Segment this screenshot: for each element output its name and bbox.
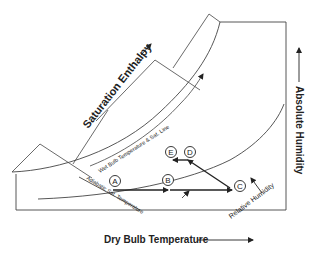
absolute-humidity-label: Absolute Humidity [294, 86, 305, 175]
relative-humidity-arrow [251, 178, 262, 193]
point-a: A [110, 176, 121, 187]
saturation-enthalpy-label: Saturation Enthalpy [80, 40, 154, 130]
dry-bulb-label: Dry Bulb Temperature [104, 234, 209, 245]
point-e: E [166, 147, 177, 158]
svg-text:C: C [237, 182, 243, 191]
svg-text:D: D [187, 148, 193, 157]
wet-bulb-label: Wet Bulb Temperature & Sat. Line [97, 124, 170, 174]
svg-text:E: E [168, 148, 173, 157]
point-c: C [235, 181, 246, 192]
point-d: D [185, 147, 196, 158]
small-tick-arrow [182, 191, 189, 198]
svg-text:A: A [112, 177, 118, 186]
relative-humidity-curve [38, 104, 284, 199]
point-b: B [163, 175, 174, 186]
svg-text:B: B [165, 176, 170, 185]
psychrometric-chart: Saturation Enthalpy Absolute Humidity Dr… [0, 0, 312, 257]
